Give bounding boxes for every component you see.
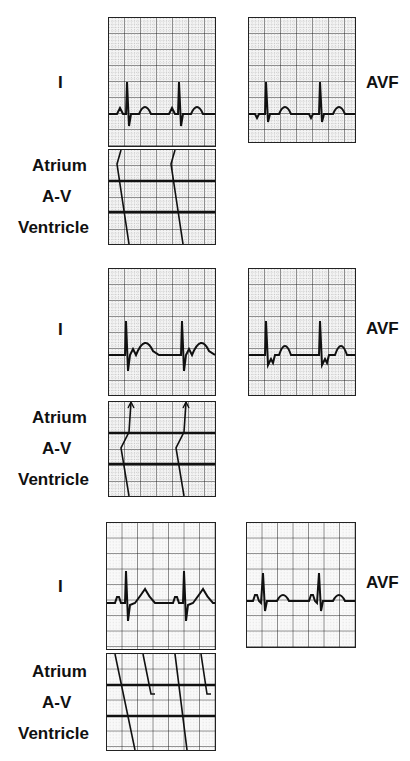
avf-label: AVF — [366, 320, 399, 337]
ecg-avf-strip — [248, 268, 356, 396]
lead-i-label: I — [58, 74, 63, 91]
ladder-atrium-label: Atrium — [32, 157, 87, 174]
ladder-atrium-label: Atrium — [32, 409, 87, 426]
ecg-trace-lead-i — [107, 523, 215, 649]
ecg-trace-avf — [249, 18, 355, 142]
ladder-av-label: A-V — [42, 188, 71, 205]
ecg-avf-strip — [248, 17, 356, 143]
ecg-trace-avf — [247, 523, 355, 647]
ladder-diagram — [108, 401, 216, 497]
avf-label: AVF — [366, 574, 399, 591]
ecg-lead-i-strip — [108, 268, 216, 396]
ladder-ventricle-label: Ventricle — [18, 725, 89, 742]
ladder-conduction-lines — [107, 654, 215, 750]
lead-i-label: I — [58, 321, 63, 338]
ecg-trace-avf — [249, 269, 355, 395]
ladder-conduction-lines — [109, 150, 215, 244]
ecg-trace-lead-i — [109, 269, 215, 395]
ladder-diagram — [108, 149, 216, 245]
ladder-diagram — [106, 653, 216, 751]
ecg-lead-i-strip — [106, 522, 216, 650]
ecg-lead-i-strip — [108, 17, 216, 147]
avf-label: AVF — [366, 74, 399, 91]
ladder-av-label: A-V — [42, 440, 71, 457]
ladder-ventricle-label: Ventricle — [18, 471, 89, 488]
ladder-av-label: A-V — [42, 694, 71, 711]
ladder-conduction-lines — [109, 402, 215, 496]
ladder-atrium-label: Atrium — [32, 663, 87, 680]
lead-i-label: I — [58, 578, 63, 595]
ecg-trace-lead-i — [109, 18, 215, 146]
ladder-ventricle-label: Ventricle — [18, 219, 89, 236]
ecg-avf-strip — [246, 522, 356, 648]
